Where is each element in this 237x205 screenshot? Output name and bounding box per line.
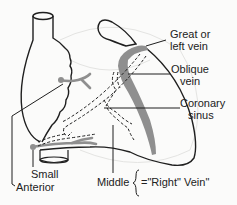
small-cardiac-vein [32,138,96,147]
label-small: Small [31,169,59,180]
inferior-vena-cava [40,150,68,163]
leader-great-vein [146,40,166,46]
label-great-vein-line1: Great or [170,29,210,40]
small-vein-origin [30,144,36,150]
curly-brace [133,170,139,196]
right-atrium [21,13,72,143]
label-oblique-vein-line1: Oblique [171,64,209,75]
label-great-vein-line2: left vein [170,41,208,52]
anterior-vein-origin [58,77,64,83]
label-oblique-vein-line2: vein [180,76,200,87]
left-atrial-appendage [98,20,136,46]
cardiac-veins-diagram: Great or left vein Oblique vein Coronary… [0,0,237,205]
label-right-vein: ="Right" Vein" [141,177,209,188]
label-coronary-sinus-line2: sinus [188,110,214,121]
label-anterior: Anterior [16,182,55,193]
leader-lines [12,40,180,186]
label-middle: Middle [97,177,129,188]
label-coronary-sinus-line1: Coronary [180,98,225,109]
great-cardiac-vein [118,46,156,156]
anterior-cardiac-vein [60,74,90,88]
